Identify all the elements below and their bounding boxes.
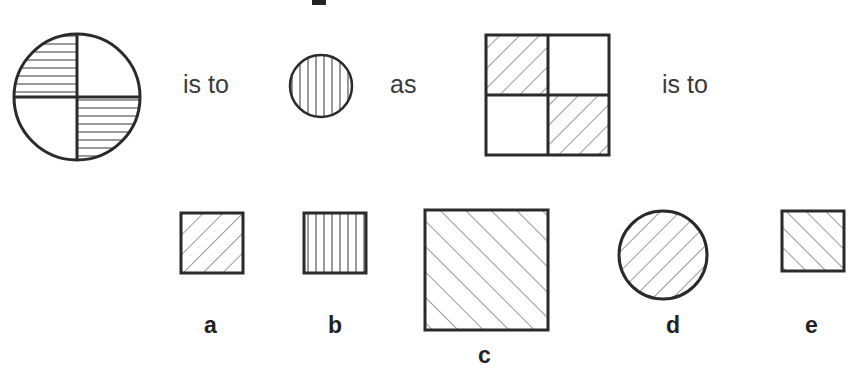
option-e-label[interactable]: e (805, 312, 818, 339)
analogy-figures (0, 0, 853, 372)
word-as: as (390, 70, 416, 99)
premise-small-circle (290, 55, 352, 117)
option-e-figure[interactable] (782, 211, 844, 271)
option-a-label[interactable]: a (204, 312, 217, 339)
premise-quartered-circle (14, 34, 140, 160)
option-d-figure[interactable] (619, 211, 707, 299)
word-is-to-1: is to (183, 70, 229, 99)
option-d-label[interactable]: d (666, 312, 680, 339)
option-c-figure[interactable] (425, 210, 548, 330)
option-a-figure[interactable] (181, 213, 243, 273)
word-is-to-2: is to (662, 70, 708, 99)
option-c-label[interactable]: c (478, 342, 491, 369)
option-b-figure[interactable] (304, 213, 366, 273)
premise-quartered-square (486, 35, 609, 155)
option-b-label[interactable]: b (328, 312, 342, 339)
